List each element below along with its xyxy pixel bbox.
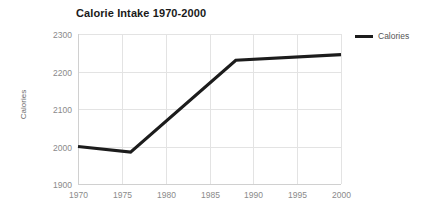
x-tick-label: 1980 xyxy=(157,190,176,200)
x-tick-label: 1995 xyxy=(288,190,307,200)
legend-line-swatch xyxy=(355,35,373,38)
chart-legend: Calories xyxy=(355,31,409,41)
y-tick-label: 2000 xyxy=(53,143,72,153)
x-tick-label: 1970 xyxy=(69,190,88,200)
y-tick-labels: 19002000210022002300 xyxy=(53,30,72,190)
y-gridlines xyxy=(78,35,341,148)
x-tick-label: 1975 xyxy=(113,190,132,200)
chart-container: Calorie Intake 1970-2000 Calories 190020… xyxy=(0,0,424,217)
x-tick-labels: 1970197519801985199019952000 xyxy=(69,190,351,200)
y-tick-label: 1900 xyxy=(53,180,72,190)
y-tick-label: 2200 xyxy=(53,68,72,78)
y-tick-label: 2100 xyxy=(53,105,72,115)
series-line-calories xyxy=(78,55,341,153)
data-series-group xyxy=(78,55,341,153)
x-tick-label: 1985 xyxy=(201,190,220,200)
legend-label-calories: Calories xyxy=(378,31,409,41)
x-tick-label: 1990 xyxy=(244,190,263,200)
x-tick-label: 2000 xyxy=(332,190,351,200)
y-tick-label: 2300 xyxy=(53,30,72,40)
